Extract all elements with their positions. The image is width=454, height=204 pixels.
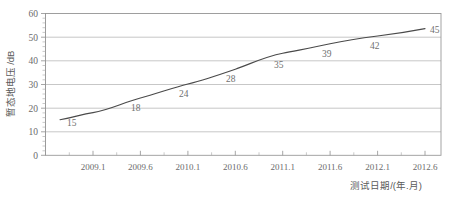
point-label-4: 28 bbox=[226, 74, 236, 84]
gridlines bbox=[46, 14, 442, 132]
x-tick-label-2012-1: 2012.1 bbox=[365, 162, 390, 172]
x-tick-label-2010-6: 2010.6 bbox=[223, 162, 248, 172]
y-tick-label-50: 50 bbox=[29, 33, 39, 43]
y-tick-label-0: 0 bbox=[33, 151, 38, 161]
point-label-1: 15 bbox=[67, 118, 77, 128]
y-tick-label-30: 30 bbox=[29, 80, 39, 90]
x-tick-label-2011-6: 2011.6 bbox=[318, 162, 343, 172]
point-label-5: 35 bbox=[274, 60, 284, 70]
y-tick-label-60: 60 bbox=[29, 9, 39, 19]
x-tick-labels: 2009.1 2009.6 2010.1 2010.6 2011.1 2011.… bbox=[81, 162, 438, 172]
y-tick-labels: 60 50 40 30 20 10 0 bbox=[29, 9, 39, 161]
y-axis-title: 暂态地电压 /dB bbox=[5, 51, 16, 118]
chart-container: 60 50 40 30 20 10 0 2009.1 2009.6 2010.1… bbox=[0, 0, 454, 204]
point-label-8: 45 bbox=[430, 25, 440, 35]
x-tick-label-2011-1: 2011.1 bbox=[270, 162, 294, 172]
y-tick-label-40: 40 bbox=[29, 56, 39, 66]
data-point-labels: 15 18 24 28 35 39 42 45 bbox=[67, 25, 440, 128]
x-axis-title: 测试日期/(年.月) bbox=[350, 180, 422, 191]
x-tick-label-2010-1: 2010.1 bbox=[176, 162, 201, 172]
x-tick-label-2012-6: 2012.6 bbox=[413, 162, 438, 172]
y-major-ticks bbox=[41, 14, 46, 156]
y-tick-label-10: 10 bbox=[29, 127, 39, 137]
x-tick-label-2009-1: 2009.1 bbox=[81, 162, 106, 172]
x-tick-label-2009-6: 2009.6 bbox=[128, 162, 153, 172]
point-label-2: 18 bbox=[131, 103, 141, 113]
point-label-6: 39 bbox=[322, 49, 332, 59]
y-tick-label-20: 20 bbox=[29, 104, 39, 114]
point-label-3: 24 bbox=[179, 89, 189, 99]
point-label-7: 42 bbox=[370, 41, 380, 51]
x-ticks bbox=[69, 151, 425, 156]
line-chart: 60 50 40 30 20 10 0 2009.1 2009.6 2010.1… bbox=[0, 0, 454, 204]
